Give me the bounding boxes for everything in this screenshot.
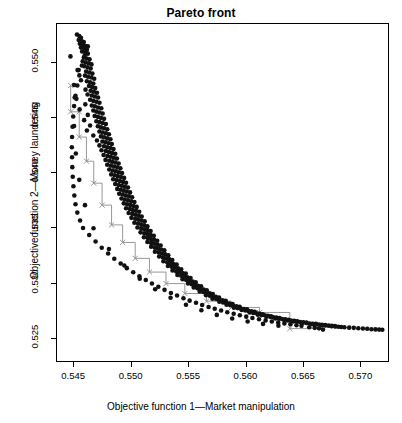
x-tick-label: 0.560 [221, 370, 271, 381]
x-tick-label: 0.545 [48, 370, 98, 381]
x-axis-label: Objective function 1—Market manipulation [0, 401, 402, 412]
x-tick [188, 362, 189, 367]
chart-title: Pareto front [0, 6, 402, 20]
y-tick [51, 117, 56, 118]
x-tick-label: 0.550 [106, 370, 156, 381]
x-tick [303, 362, 304, 367]
x-tick [360, 362, 361, 367]
x-tick [246, 362, 247, 367]
x-tick-label: 0.555 [163, 370, 213, 381]
x-tick-label: 0.565 [278, 370, 328, 381]
chart-root: Pareto front 0.5450.5500.5550.5600.5650.… [0, 0, 402, 423]
y-tick [51, 338, 56, 339]
y-tick [51, 172, 56, 173]
x-tick [73, 362, 74, 367]
x-tick-label: 0.570 [335, 370, 385, 381]
plot-area [56, 23, 389, 362]
x-tick [131, 362, 132, 367]
y-tick [51, 62, 56, 63]
y-axis-label: Objective function 2—Money laundering [29, 61, 40, 321]
y-tick [51, 283, 56, 284]
scatter-plot-svg [57, 24, 388, 361]
y-tick [51, 227, 56, 228]
